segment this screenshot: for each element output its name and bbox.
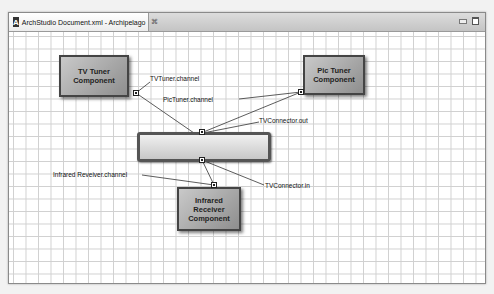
diagram-canvas[interactable]: TV TunerComponent Pic TunerComponent Inf…: [9, 32, 485, 283]
maximize-icon[interactable]: [472, 17, 479, 25]
tab-title: ArchStudio Document.xml - Archipelago: [22, 19, 146, 26]
component-label: Component: [313, 75, 355, 84]
label-pic-channel: PicTuner.channel: [163, 96, 213, 103]
component-label: TV Tuner: [78, 67, 110, 76]
minimize-icon[interactable]: [459, 19, 467, 24]
label-connector-out: TVConnector.out: [259, 117, 308, 124]
pic-tuner-component[interactable]: Pic TunerComponent: [303, 55, 365, 95]
tab-bar: A ArchStudio Document.xml - Archipelago …: [9, 13, 485, 32]
pic-tuner-port[interactable]: [298, 89, 304, 95]
infrared-port[interactable]: [211, 182, 217, 188]
connector-out-port[interactable]: [199, 129, 205, 135]
window-controls: [459, 17, 479, 25]
wire-pic-to-connector: [201, 92, 301, 133]
label-connector-in: TVConnector.in: [265, 182, 310, 189]
connector-in-port[interactable]: [199, 157, 205, 163]
component-label: Component: [188, 214, 230, 223]
component-label: Pic Tuner: [317, 66, 351, 75]
component-label: Component: [73, 76, 115, 85]
close-tab-icon[interactable]: ⌘: [151, 18, 158, 26]
component-label: Infrared Receiver: [193, 196, 224, 214]
label-ir-channel: Infrared Reveiver.channel: [53, 171, 127, 178]
infrared-receiver-component[interactable]: Infrared ReceiverComponent: [177, 187, 241, 231]
label-tv-channel: TVTuner.channel: [150, 75, 199, 82]
document-tab[interactable]: A ArchStudio Document.xml - Archipelago …: [9, 13, 149, 31]
archstudio-icon: A: [13, 17, 19, 27]
tv-tuner-port[interactable]: [133, 90, 139, 96]
editor-window: A ArchStudio Document.xml - Archipelago …: [8, 12, 486, 284]
tv-tuner-component[interactable]: TV TunerComponent: [59, 55, 129, 97]
